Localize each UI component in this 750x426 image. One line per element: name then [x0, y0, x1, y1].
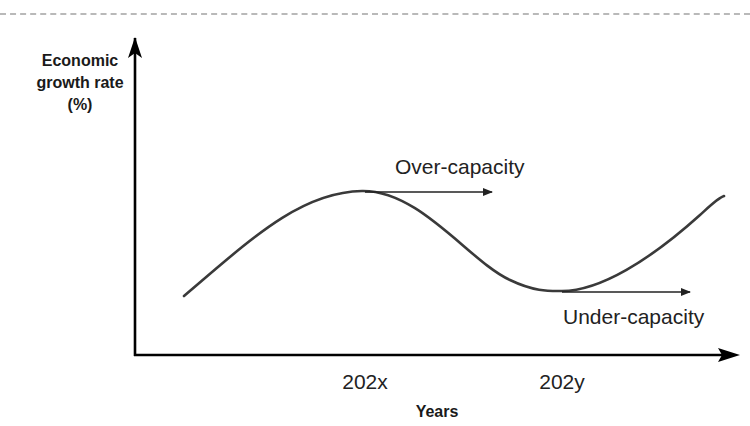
y-axis-label: Economic growth rate (%): [28, 50, 132, 116]
x-tick-label: 202y: [539, 370, 585, 394]
y-axis-label-line-2: growth rate: [28, 72, 132, 94]
growth-curve: [184, 191, 724, 296]
x-axis-label: Years: [416, 403, 459, 421]
under-capacity-label: Under-capacity: [563, 305, 704, 329]
y-axis-label-line-1: Economic: [28, 50, 132, 72]
y-axis-label-line-3: (%): [28, 94, 132, 116]
over-capacity-label: Over-capacity: [395, 155, 525, 179]
x-tick-label: 202x: [342, 370, 388, 394]
